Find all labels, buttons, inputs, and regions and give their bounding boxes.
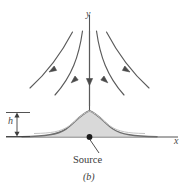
h-arrow-up bbox=[14, 113, 19, 118]
y-axis-label: y bbox=[86, 9, 90, 19]
figure-caption: (b) bbox=[83, 172, 95, 182]
x-axis-label: x bbox=[174, 136, 178, 146]
source-label: Source bbox=[73, 155, 102, 166]
height-dimension-label: h bbox=[8, 116, 13, 126]
h-arrow-down bbox=[14, 132, 19, 137]
figure-container: y x h Source (b) bbox=[0, 0, 189, 190]
streamline-right-arrow bbox=[101, 76, 108, 83]
streamline-left bbox=[55, 31, 83, 95]
source-leader-line bbox=[90, 139, 100, 153]
streamline-right bbox=[97, 31, 125, 95]
streamline-left-arrow bbox=[71, 76, 78, 83]
streamline-center-arrow bbox=[86, 79, 92, 86]
